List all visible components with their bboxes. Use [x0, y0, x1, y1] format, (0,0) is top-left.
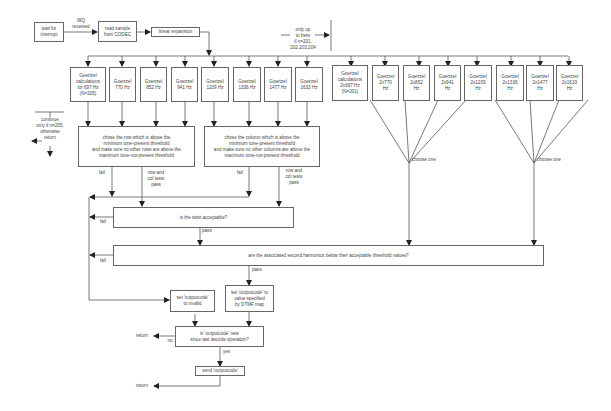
row-fail-label: fail — [96, 170, 108, 176]
goertzel-852-box: Goertzel 852 Hz — [140, 67, 167, 102]
read-sample-box: read sample from CODEC — [98, 21, 137, 42]
harmonics-check-label: are the associated second harmonics belo… — [248, 253, 408, 259]
send-outputcode-label: send 'outputcode' — [202, 368, 238, 374]
row-col-pass-label-2: row and col tests pass — [283, 168, 305, 186]
goertzel-697-label: Goertzel calculations for 697 Hz (N=205) — [76, 73, 100, 97]
goertzel-2x1633-box: Goertzel 2x1633 Hz — [556, 65, 583, 101]
linear-expansion-label: linear expansion — [159, 29, 192, 35]
goertzel-770-box: Goertzel 770 Hz — [109, 67, 136, 102]
row-col-pass-label: row and col tests pass — [145, 170, 167, 188]
dtmf-flowchart: wait for interrupt IRQ received read sam… — [0, 0, 611, 411]
goertzel-2x1477-box: Goertzel 2x1477 Hz — [526, 65, 554, 101]
set-dtmf-value-box: set 'outputcode' to value specified by D… — [225, 285, 274, 312]
goertzel-2x770-label: Goertzel 2x770 Hz — [377, 74, 394, 92]
yes-label: yes — [223, 349, 235, 355]
goertzel-852-label: Goertzel 852 Hz — [145, 79, 162, 91]
goertzel-1477-label: Goertzel 1477 Hz — [269, 79, 286, 91]
irq-received-label: IRQ received — [67, 18, 95, 30]
goertzel-1209-box: Goertzel 1209 Hz — [201, 67, 229, 102]
goertzel-1633-box: Goertzel 1633 Hz — [295, 67, 323, 102]
column-selection-label: chose the column which is above the mini… — [214, 135, 310, 159]
harmonics-fail-label: fail — [97, 258, 109, 264]
goertzel-941-label: Goertzel 941 Hz — [176, 79, 193, 91]
row-selection-label: chose the row which is above the minimum… — [92, 135, 181, 159]
goertzel-1336-label: Goertzel 1336 Hz — [238, 79, 255, 91]
wait-for-interrupt-label: wait for interrupt — [41, 26, 58, 38]
outputcode-new-label: is 'outputcode' new since last decode op… — [190, 331, 248, 343]
goertzel-2x770-box: Goertzel 2x770 Hz — [372, 65, 399, 101]
choose-one-right-label: choose one — [537, 157, 567, 163]
goertzel-2x941-box: Goertzel 2x941 Hz — [434, 65, 461, 101]
twist-check-label: is the twist acceptable? — [180, 215, 228, 221]
goertzel-697-box: Goertzel calculations for 697 Hz (N=205) — [70, 67, 106, 102]
goertzel-2x1477-label: Goertzel 2x1477 Hz — [531, 74, 548, 92]
goertzel-2x1633-label: Goertzel 2x1633 Hz — [561, 74, 578, 92]
no-label: no — [166, 338, 174, 344]
goertzel-2x941-label: Goertzel 2x941 Hz — [439, 74, 456, 92]
harmonics-check-box: are the associated second harmonics belo… — [113, 245, 544, 266]
goertzel-2x852-box: Goertzel 2x852 Hz — [403, 65, 430, 101]
goertzel-2x697-label: Goertzel calculations 2x697 Hz (N=201) — [338, 71, 362, 95]
send-outputcode-box: send 'outputcode' — [195, 366, 245, 376]
goertzel-2x1209-label: Goertzel 2x1209 Hz — [469, 74, 486, 92]
set-dtmf-value-label: set 'outputcode' to value specified by D… — [231, 290, 268, 308]
continue-note: continue only if n=205, otherwise return — [32, 117, 68, 141]
return-label-2: return — [133, 383, 151, 389]
col-fail-label: fail — [234, 170, 246, 176]
goertzel-1477-box: Goertzel 1477 Hz — [264, 67, 292, 102]
goertzel-1633-label: Goertzel 1633 Hz — [300, 79, 317, 91]
wait-for-interrupt-box: wait for interrupt — [34, 22, 64, 42]
row-selection-box: chose the row which is above the minimum… — [78, 126, 195, 167]
twist-fail-label: fail — [97, 219, 109, 225]
goertzel-2x852-label: Goertzel 2x852 Hz — [408, 74, 425, 92]
goertzel-2x1209-box: Goertzel 2x1209 Hz — [464, 65, 492, 101]
set-invalid-label: set 'outputcode' to invalid — [177, 295, 209, 307]
only-up-to-here-note: only up to here if n=201, 202,203,204 — [286, 27, 320, 51]
goertzel-941-box: Goertzel 941 Hz — [171, 67, 198, 102]
return-label-1: return — [133, 333, 151, 339]
twist-pass-label: pass — [202, 228, 216, 234]
set-invalid-box: set 'outputcode' to invalid — [170, 290, 215, 312]
goertzel-770-label: Goertzel 770 Hz — [114, 79, 131, 91]
linear-expansion-box: linear expansion — [151, 27, 200, 37]
goertzel-2x697-box: Goertzel calculations 2x697 Hz (N=201) — [332, 65, 368, 101]
column-selection-box: chose the column which is above the mini… — [204, 126, 320, 167]
outputcode-new-box: is 'outputcode' new since last decode op… — [175, 326, 264, 347]
connector-lines — [0, 0, 611, 411]
harmonics-pass-label: pass — [252, 267, 266, 273]
goertzel-1336-box: Goertzel 1336 Hz — [233, 67, 261, 102]
read-sample-label: read sample from CODEC — [104, 26, 131, 38]
goertzel-2x1336-box: Goertzel 2x1336 Hz — [496, 65, 524, 101]
twist-check-box: is the twist acceptable? — [113, 207, 294, 228]
choose-one-left-label: choose one — [412, 157, 442, 163]
goertzel-2x1336-label: Goertzel 2x1336 Hz — [501, 74, 518, 92]
goertzel-1209-label: Goertzel 1209 Hz — [206, 79, 223, 91]
